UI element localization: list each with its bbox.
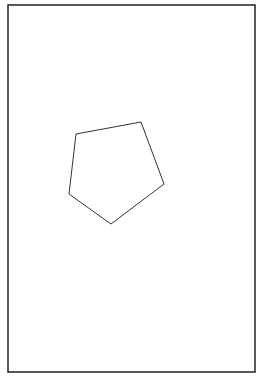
diagram-canvas (0, 0, 266, 377)
border-frame (8, 5, 255, 372)
pentagon-shape (69, 122, 164, 224)
